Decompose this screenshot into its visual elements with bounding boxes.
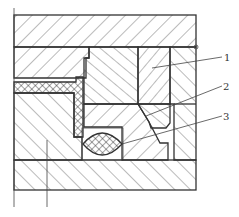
cross-section-drawing: 1 2 3: [0, 0, 239, 217]
outer-right-column: [170, 47, 196, 160]
bottom-plate: [14, 160, 196, 190]
upper-left-housing: [14, 47, 89, 78]
part-1: [138, 47, 170, 104]
callout-3: 3: [223, 111, 229, 122]
callout-1: 1: [224, 52, 230, 63]
part-3-oring: [82, 128, 123, 160]
callout-2: 2: [223, 81, 229, 92]
center-block: [84, 47, 138, 104]
top-plate: [14, 15, 196, 47]
lower-left-block: [14, 93, 82, 160]
